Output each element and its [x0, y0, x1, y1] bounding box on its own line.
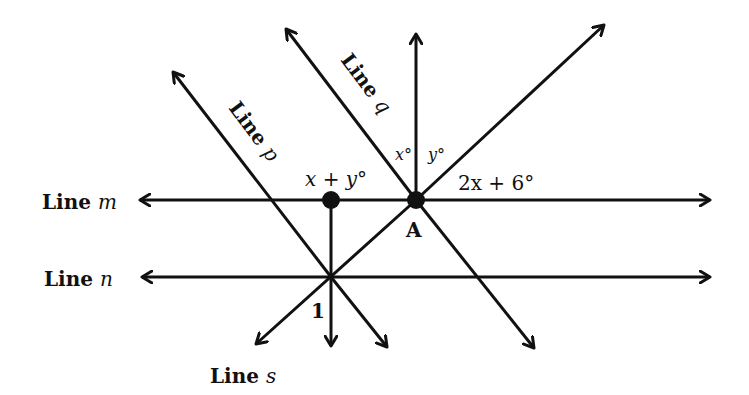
line-p	[173, 72, 387, 347]
angle-x-plus-y-label: x + y°	[305, 167, 367, 191]
angle-2x-plus-6-label: 2x + 6°	[458, 171, 534, 195]
point-a-label: A	[405, 218, 422, 242]
angle-x-label: x°	[395, 145, 412, 164]
point-on-m-dot	[322, 191, 340, 209]
angle-y-label: y°	[427, 145, 445, 164]
line-m-label: Line m	[42, 190, 117, 214]
line-n-label: Line n	[44, 267, 113, 291]
line-s-label: Line s	[210, 364, 276, 388]
line-p-label: Line p	[224, 97, 285, 166]
angle-1-label: 1	[311, 299, 325, 323]
geometry-diagram: Line m Line n Line s Line p Line q x° y°…	[0, 0, 749, 395]
point-a-dot	[407, 191, 425, 209]
